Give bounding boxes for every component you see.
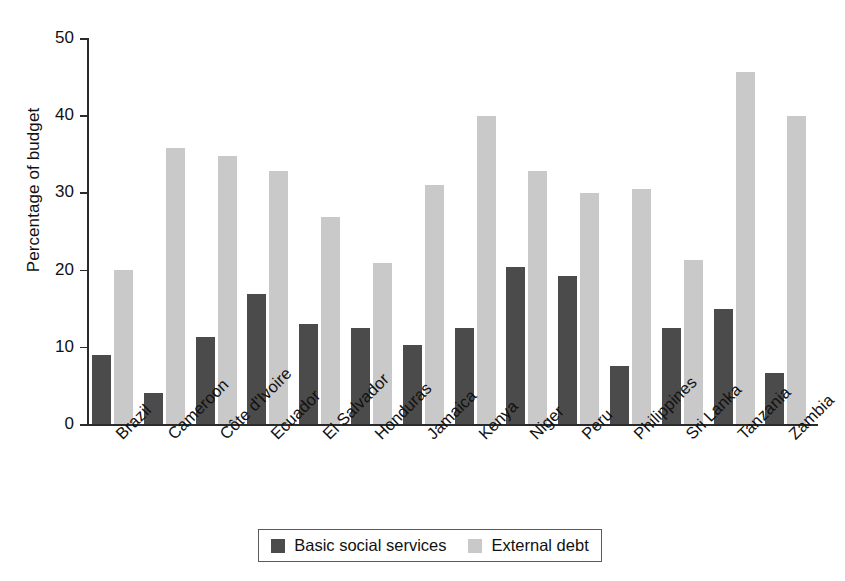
legend-label: External debt	[491, 536, 588, 555]
y-tick	[80, 192, 87, 194]
legend-item-external-debt: External debt	[468, 536, 588, 555]
bar-external-debt	[736, 72, 755, 424]
bar-basic-social-services	[92, 355, 111, 424]
bar-group	[558, 38, 599, 424]
bar-group	[144, 38, 185, 424]
bar-external-debt	[580, 193, 599, 424]
y-axis-line	[87, 38, 89, 424]
chart-legend: Basic social services External debt	[258, 529, 602, 562]
bar-external-debt	[477, 116, 496, 424]
y-tick-label: 10	[55, 337, 74, 357]
legend-item-basic-social-services: Basic social services	[271, 536, 446, 555]
y-tick-label: 20	[55, 260, 74, 280]
y-tick-label: 40	[55, 105, 74, 125]
y-tick	[80, 270, 87, 272]
legend-swatch-icon	[468, 539, 482, 553]
y-tick-label: 0	[65, 414, 74, 434]
bar-group	[299, 38, 340, 424]
y-tick	[80, 38, 87, 40]
bar-group	[506, 38, 547, 424]
bar-group	[196, 38, 237, 424]
bar-group	[610, 38, 651, 424]
y-tick	[80, 424, 87, 426]
y-tick-label: 50	[55, 28, 74, 48]
bar-group	[714, 38, 755, 424]
bar-basic-social-services	[558, 276, 577, 424]
bar-group	[351, 38, 392, 424]
bar-external-debt	[114, 270, 133, 424]
bar-external-debt	[321, 217, 340, 424]
bar-chart: Percentage of budget 01020304050 BrazilC…	[0, 0, 845, 581]
y-tick-label: 30	[55, 182, 74, 202]
bar-external-debt	[787, 116, 806, 424]
bar-group	[455, 38, 496, 424]
bar-group	[92, 38, 133, 424]
bar-external-debt	[632, 189, 651, 424]
bar-external-debt	[528, 171, 547, 424]
y-tick	[80, 347, 87, 349]
legend-swatch-icon	[271, 539, 285, 553]
bar-external-debt	[166, 148, 185, 424]
bar-group	[403, 38, 444, 424]
bar-group	[765, 38, 806, 424]
bar-group	[662, 38, 703, 424]
legend-label: Basic social services	[294, 536, 446, 555]
y-tick	[80, 115, 87, 117]
y-axis-title: Percentage of budget	[24, 70, 44, 310]
plot-area: 01020304050	[88, 38, 818, 424]
